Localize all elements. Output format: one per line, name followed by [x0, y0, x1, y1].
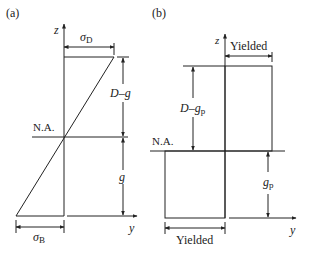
lower-yielded-block	[165, 151, 225, 218]
neutral-axis-label-a: N.A.	[33, 121, 55, 133]
sigma-d-label: σD	[80, 30, 93, 45]
y-axis-label-b: y	[289, 223, 296, 237]
z-axis-label-a: z	[53, 23, 59, 37]
top-yielded-label: Yielded	[230, 39, 267, 53]
panel-a: (a) z N.A. y σD σB D–g g	[6, 6, 137, 245]
d-g-label: D–g	[109, 86, 131, 100]
neutral-axis-label-b: N.A.	[152, 135, 174, 147]
panel-a-tag: (a)	[6, 6, 19, 20]
bottom-yielded-label: Yielded	[176, 233, 213, 247]
g-label: g	[119, 170, 125, 184]
panel-b-tag: (b)	[152, 6, 166, 20]
y-axis-label-a: y	[128, 221, 135, 235]
gp-label: gp	[263, 175, 274, 190]
d-gp-label: D–gp	[179, 101, 206, 116]
sigma-b-label: σB	[33, 230, 45, 245]
z-axis-label-b: z	[214, 34, 220, 46]
panel-b: (b) z N.A. y Yielded Yielded D–gp gp	[150, 6, 296, 247]
stress-distribution-diagram: (a) z N.A. y σD σB D–g g	[0, 0, 309, 256]
upper-yielded-block	[225, 66, 272, 151]
